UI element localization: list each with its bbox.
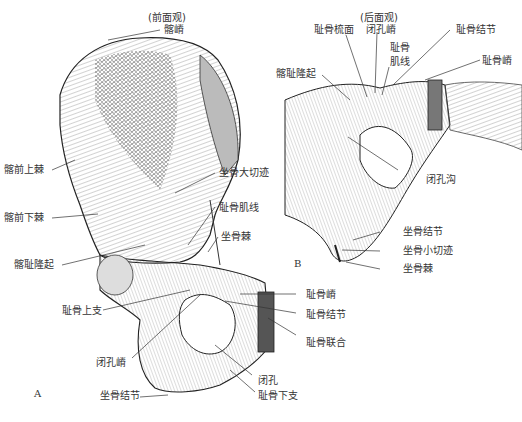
label-ischial-spine-a: 坐骨棘: [221, 231, 251, 243]
anatomy-illustration: [0, 0, 522, 422]
label-lesser-sciatic-notch: 坐骨小切迹: [403, 245, 453, 257]
panel-letter-b: B: [294, 258, 301, 269]
view-caption-posterior: (后面观): [360, 12, 398, 24]
label-obturator-groove: 闭孔沟: [426, 174, 456, 186]
label-pubic-tubercle-a: 耻骨结节: [306, 309, 346, 321]
label-asis: 髂前上棘: [4, 164, 44, 176]
panel-letter-a: A: [34, 388, 41, 399]
label-pectineal-line-a: 耻骨肌线: [219, 202, 259, 214]
label-obturator-crest-b: 闭孔嵴: [366, 24, 396, 36]
label-iliopubic-eminence-b: 髂耻隆起: [276, 68, 316, 80]
label-pubic-symphysis: 耻骨联合: [306, 337, 346, 349]
label-aiis: 髂前下棘: [4, 212, 44, 224]
hip-bone-anatomy-figure: (前面观) 髂嵴 髂前上棘 髂前下棘 髂耻隆起 坐骨大切迹 耻骨肌线 坐骨棘 耻…: [0, 0, 522, 422]
label-superior-pubic-ramus: 耻骨上支: [62, 305, 102, 317]
label-greater-sciatic-notch: 坐骨大切迹: [219, 167, 269, 179]
label-pectineal-surface: 耻骨梳面: [314, 24, 354, 36]
label-inferior-pubic-ramus: 耻骨下支: [258, 390, 298, 402]
label-pubic-crest-a: 耻骨嵴: [306, 289, 336, 301]
label-ischial-tuberosity-b: 坐骨结节: [403, 226, 443, 238]
label-pubic-tubercle-b: 耻骨结节: [456, 24, 496, 36]
label-ischial-tuberosity-a: 坐骨结节: [100, 390, 140, 402]
label-pubic-crest-b: 耻骨嵴: [482, 55, 512, 67]
label-iliopubic-eminence-a: 髂耻隆起: [14, 259, 54, 271]
label-pectineal-line-b-2: 肌线: [390, 56, 410, 68]
label-pectineal-line-b-1: 耻骨: [390, 42, 410, 54]
view-caption-anterior: (前面观): [148, 12, 186, 24]
label-obturator-crest-a: 闭孔嵴: [96, 357, 126, 369]
label-obturator-foramen: 闭孔: [258, 375, 278, 387]
label-iliac-crest: 髂嵴: [164, 24, 184, 36]
label-ischial-spine-b: 坐骨棘: [403, 263, 433, 275]
